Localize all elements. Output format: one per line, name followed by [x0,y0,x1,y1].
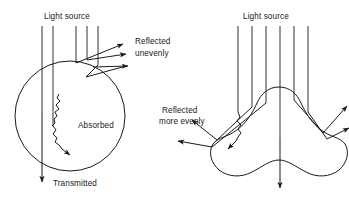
left-reflected-rays [76,44,128,77]
r-reflected-seg-1 [217,107,252,140]
right-reflected-qualifier-label: more evenly [159,117,206,126]
left-absorbed-ray [52,94,70,155]
r-reflected-ray-2 [178,141,212,147]
right-panel-group: Light source [159,12,349,188]
r-reflected-ray-3 [323,106,347,133]
left-panel-group: Light source Reflected unevenly [15,12,171,188]
left-light-source-label: Light source [44,12,90,21]
r-reflected-ray-4 [327,128,349,139]
left-reflected-qualifier-label: unevenly [135,49,169,58]
r-reflected-seg-2 [212,103,266,147]
right-reflected-label: Reflected [162,106,198,115]
right-incident-rays [238,26,308,140]
optics-scattering-diagram: Light source Reflected unevenly [0,0,349,199]
absorbed-squiggle-lower [53,126,70,155]
r-absorbed-squiggle [228,112,241,149]
left-transmitted-label: Transmitted [53,179,97,188]
reflected-ray-1 [76,44,123,63]
right-light-source-label: Light source [243,12,289,21]
reflected-ray-2 [87,54,126,60]
left-reflected-label: Reflected [135,37,171,46]
r-reflected-seg-4 [308,112,327,139]
r-reflected-seg-3 [294,100,323,133]
left-absorbed-label: Absorbed [78,121,114,130]
diagram-canvas: Light source Reflected unevenly [0,0,349,199]
